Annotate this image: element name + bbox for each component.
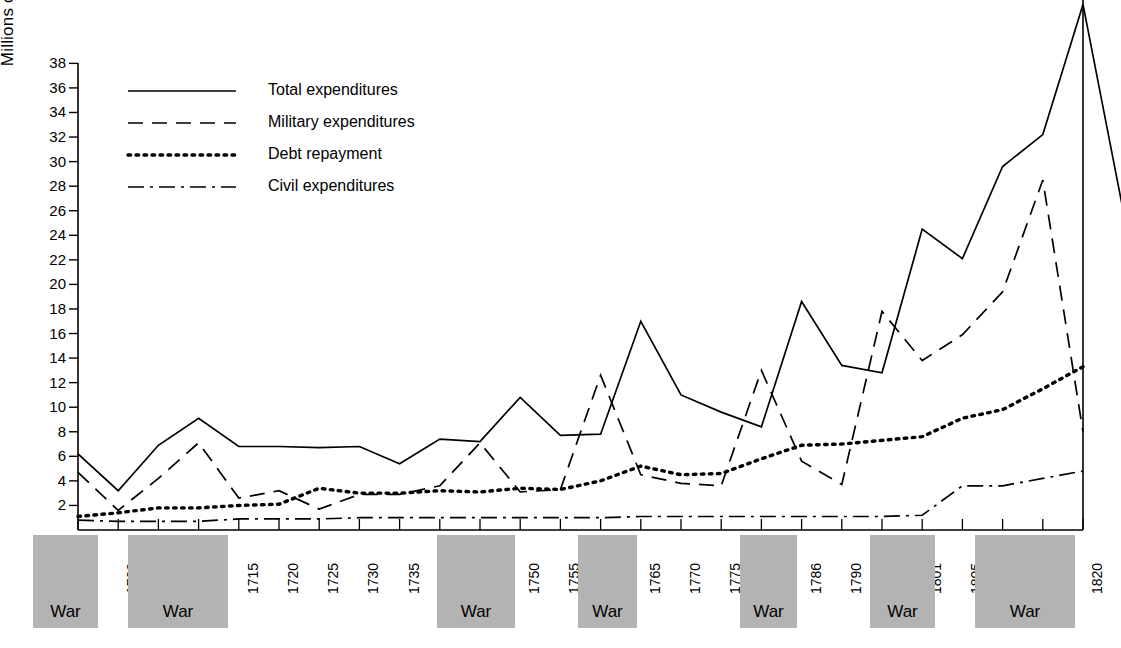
legend-label-3: Civil expenditures [268, 177, 394, 195]
legend-swatches [128, 91, 236, 187]
series-line-1 [78, 180, 1083, 510]
legend-label-0: Total expenditures [268, 81, 398, 99]
x-axis-ticks [78, 519, 1083, 530]
y-axis-ticks [69, 63, 78, 505]
expenditure-line-chart: Millions of £ 24681012141618202224262830… [0, 0, 1121, 648]
war-band-label: War [128, 602, 228, 622]
legend-label-1: Military expenditures [268, 113, 415, 131]
series-line-2 [78, 367, 1083, 517]
war-band-label: War [870, 602, 935, 622]
war-band-label: War [33, 602, 98, 622]
plot-area [0, 0, 1121, 648]
war-band-label: War [578, 602, 637, 622]
war-band-label: War [740, 602, 797, 622]
data-series [78, 4, 1121, 521]
war-band-label: War [975, 602, 1075, 622]
axes [78, 0, 1083, 530]
war-band-label: War [437, 602, 515, 622]
series-line-3 [78, 471, 1083, 521]
legend-label-2: Debt repayment [268, 145, 382, 163]
